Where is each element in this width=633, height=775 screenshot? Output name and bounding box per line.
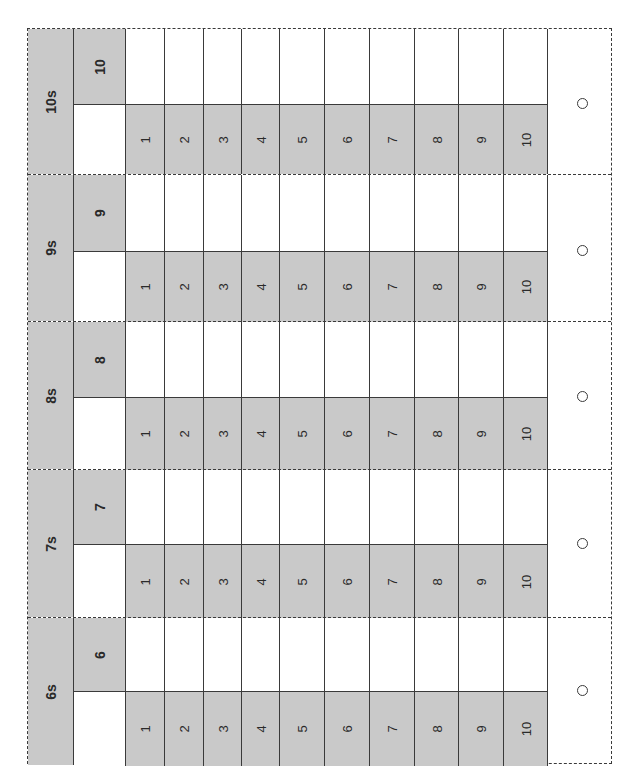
section-eights: 8s812345678910 <box>28 321 611 469</box>
factor-value: 3 <box>215 725 230 732</box>
factor-cell: 7 <box>369 251 414 322</box>
answer-cell[interactable] <box>164 29 203 104</box>
answer-cell[interactable] <box>125 618 164 691</box>
factor-cell: 10 <box>503 397 547 470</box>
factor-cell: 5 <box>279 544 324 618</box>
section-label-cell: 9s <box>28 175 74 321</box>
answer-cell[interactable] <box>241 175 279 251</box>
grid-right-border <box>547 29 548 174</box>
answer-cell[interactable] <box>458 470 503 544</box>
answer-cell[interactable] <box>369 618 414 691</box>
answer-cell[interactable] <box>369 322 414 397</box>
answer-cell[interactable] <box>125 322 164 397</box>
answer-cell[interactable] <box>324 175 369 251</box>
answer-cell[interactable] <box>279 175 324 251</box>
factor-value: 1 <box>138 725 153 732</box>
factor-value: 6 <box>340 136 355 143</box>
factor-cell: 4 <box>241 104 279 174</box>
factor-cell: 3 <box>203 397 241 470</box>
multiplier-cell: 7 <box>74 470 125 544</box>
answer-cell[interactable] <box>203 470 241 544</box>
answer-cell[interactable] <box>125 175 164 251</box>
answer-cell[interactable] <box>503 618 547 691</box>
answer-cell[interactable] <box>458 29 503 104</box>
factor-value: 9 <box>474 136 489 143</box>
factor-cell: 10 <box>503 251 547 322</box>
check-circle-icon[interactable] <box>577 391 588 402</box>
check-circle-icon[interactable] <box>577 538 588 549</box>
check-circle-icon[interactable] <box>577 245 588 256</box>
factor-cell: 3 <box>203 691 241 766</box>
check-circle-icon[interactable] <box>577 685 588 696</box>
section-sixes: 6s612345678910 <box>28 617 611 765</box>
factor-cell: 9 <box>458 251 503 322</box>
blank-cell <box>74 104 125 174</box>
factor-cell: 3 <box>203 251 241 322</box>
factor-cell: 6 <box>324 691 369 766</box>
answer-cell[interactable] <box>503 470 547 544</box>
answer-cell[interactable] <box>324 322 369 397</box>
factor-value: 9 <box>474 430 489 437</box>
grid-right-border <box>547 618 548 766</box>
answer-cell[interactable] <box>369 29 414 104</box>
section-label-cell: 8s <box>28 322 74 469</box>
answer-cell[interactable] <box>503 322 547 397</box>
answer-cell[interactable] <box>203 322 241 397</box>
factor-value: 2 <box>177 430 192 437</box>
answer-cell[interactable] <box>414 29 458 104</box>
answer-cell[interactable] <box>458 618 503 691</box>
answer-cell[interactable] <box>414 322 458 397</box>
answer-cell[interactable] <box>369 175 414 251</box>
factor-cell: 4 <box>241 397 279 470</box>
factor-value: 1 <box>138 283 153 290</box>
factor-value: 4 <box>253 725 268 732</box>
answer-cell[interactable] <box>503 29 547 104</box>
answer-cell[interactable] <box>503 175 547 251</box>
answer-cell[interactable] <box>241 618 279 691</box>
answer-cell[interactable] <box>125 470 164 544</box>
answer-cell[interactable] <box>164 322 203 397</box>
answer-cell[interactable] <box>414 618 458 691</box>
answer-cell[interactable] <box>164 470 203 544</box>
factor-cell: 9 <box>458 691 503 766</box>
factor-value: 6 <box>340 725 355 732</box>
answer-cell[interactable] <box>324 29 369 104</box>
answer-cell[interactable] <box>164 618 203 691</box>
factor-value: 9 <box>474 725 489 732</box>
answer-cell[interactable] <box>414 470 458 544</box>
answer-cell[interactable] <box>203 175 241 251</box>
factor-cell: 4 <box>241 251 279 322</box>
answer-cell[interactable] <box>458 175 503 251</box>
check-circle-icon[interactable] <box>577 98 588 109</box>
answer-cell[interactable] <box>203 29 241 104</box>
answer-cell[interactable] <box>324 618 369 691</box>
factor-value: 7 <box>385 725 400 732</box>
factor-cell: 2 <box>164 544 203 618</box>
answer-cell[interactable] <box>241 470 279 544</box>
blank-cell <box>74 397 125 470</box>
answer-cell[interactable] <box>279 322 324 397</box>
answer-cell[interactable] <box>279 618 324 691</box>
answer-cell[interactable] <box>241 322 279 397</box>
answer-cell[interactable] <box>279 29 324 104</box>
blank-cell <box>74 544 125 618</box>
factor-value: 4 <box>253 136 268 143</box>
factor-value: 5 <box>295 725 310 732</box>
factor-value: 7 <box>385 578 400 585</box>
answer-cell[interactable] <box>369 470 414 544</box>
factor-cell: 7 <box>369 691 414 766</box>
answer-cell[interactable] <box>203 618 241 691</box>
multiplier-cell: 10 <box>74 29 125 104</box>
factor-cell: 1 <box>125 251 164 322</box>
factor-cell: 8 <box>414 691 458 766</box>
answer-cell[interactable] <box>241 29 279 104</box>
answer-cell[interactable] <box>125 29 164 104</box>
factor-cell: 6 <box>324 251 369 322</box>
answer-cell[interactable] <box>164 175 203 251</box>
answer-cell[interactable] <box>414 175 458 251</box>
blank-cell <box>74 251 125 322</box>
answer-cell[interactable] <box>279 470 324 544</box>
multiplier-value: 10 <box>92 59 108 75</box>
answer-cell[interactable] <box>458 322 503 397</box>
answer-cell[interactable] <box>324 470 369 544</box>
